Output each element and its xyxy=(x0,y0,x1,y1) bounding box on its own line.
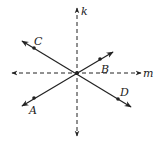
label-k: k xyxy=(81,5,88,18)
point-b xyxy=(98,57,102,61)
label-b: B xyxy=(100,63,109,76)
label-a: A xyxy=(28,104,37,117)
label-d: D xyxy=(119,86,129,99)
label-c: C xyxy=(34,35,43,48)
point-a xyxy=(32,96,36,100)
center-point xyxy=(75,71,79,75)
label-m: m xyxy=(143,67,153,80)
lines-diagram: k C B m A D xyxy=(0,0,156,146)
